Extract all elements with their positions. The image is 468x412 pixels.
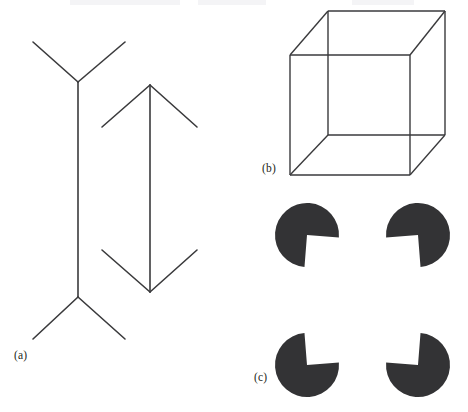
depth-edge-top-right [410, 11, 445, 55]
panel-label-a: (a) [14, 349, 27, 361]
right-top-arrow-inward-left [102, 85, 150, 127]
muller-lyer-left-figure [33, 42, 125, 339]
right-bottom-arrow-inward-left [102, 250, 150, 292]
muller-lyer-right-figure [102, 85, 197, 292]
panel-label-b: (b) [262, 162, 276, 174]
panel-label-c: (c) [254, 371, 267, 383]
left-bottom-fin-outward-left [33, 297, 78, 339]
pacman-top-right [386, 203, 450, 267]
depth-edge-top-left [290, 11, 328, 55]
illusions-figure: (a) (b) (c) [0, 0, 468, 412]
right-top-arrow-inward-right [150, 85, 197, 127]
left-top-fin-outward-right [78, 42, 125, 82]
depth-edge-bottom-left [290, 135, 328, 175]
pacman-bottom-left [275, 333, 339, 397]
necker-depth-edges [290, 11, 445, 175]
panel-b-necker-cube [290, 11, 445, 175]
pacman-top-left [275, 203, 339, 267]
illusions-canvas [0, 0, 468, 412]
panel-a-muller-lyer [33, 42, 197, 339]
panel-c-kanizsa-square [275, 203, 450, 397]
pacman-bottom-right [386, 333, 450, 397]
right-bottom-arrow-inward-right [150, 250, 197, 292]
left-bottom-fin-outward-right [78, 297, 125, 339]
depth-edge-bottom-right [410, 135, 445, 175]
left-top-fin-outward-left [33, 42, 78, 82]
necker-back-face [328, 11, 445, 135]
